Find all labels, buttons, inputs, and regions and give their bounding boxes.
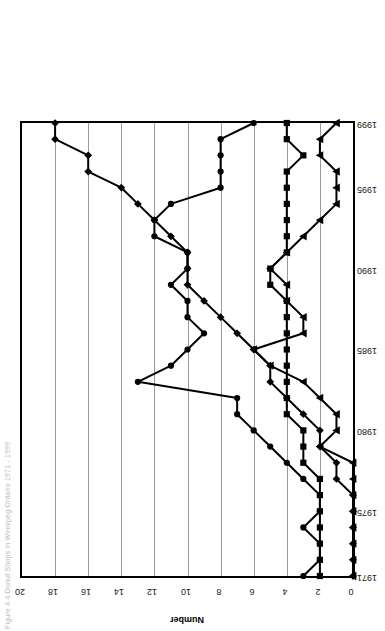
- data-point: [300, 460, 306, 466]
- data-point: [300, 476, 306, 482]
- y-tick-label: 14: [114, 587, 124, 597]
- y-tick-label-text: 8: [216, 587, 221, 597]
- y-tick-label-text: 16: [81, 587, 91, 597]
- data-point: [151, 217, 157, 223]
- data-point: [201, 330, 207, 336]
- x-tick-label-text: 1995: [357, 185, 377, 195]
- series-country-style: [135, 120, 323, 579]
- x-tick-label-text: 1980: [357, 427, 377, 437]
- data-point: [284, 379, 290, 385]
- chart-screenshot: Figure 4.4 Donut Shops in Winnipeg Ontar…: [0, 0, 385, 631]
- x-tick-label: 1975: [357, 508, 377, 518]
- y-tick-label: 10: [180, 587, 190, 597]
- x-tick-label: 1990: [357, 266, 377, 276]
- y-tick-label: 8: [216, 587, 221, 597]
- data-point: [284, 201, 290, 207]
- data-point: [317, 524, 323, 530]
- x-tick-label-text: 1975: [357, 508, 377, 518]
- data-point: [267, 282, 273, 288]
- data-point: [284, 314, 290, 320]
- series-line: [270, 123, 320, 576]
- y-tick-label: 0: [348, 587, 353, 597]
- y-tick-label-text: 12: [147, 587, 157, 597]
- series-line: [138, 123, 320, 576]
- data-point: [284, 363, 290, 369]
- data-point: [267, 443, 273, 449]
- figure-caption: Figure 4.4 Donut Shops in Winnipeg Ontar…: [4, 442, 11, 629]
- data-point: [218, 136, 224, 142]
- y-tick-label-text: 20: [15, 587, 25, 597]
- data-point: [300, 524, 306, 530]
- y-tick-label-text: 2: [315, 587, 320, 597]
- data-point: [184, 249, 190, 255]
- data-point: [51, 119, 59, 127]
- x-tick-label-text: 1990: [357, 266, 377, 276]
- x-tick-label: 1971: [357, 573, 377, 583]
- data-point: [284, 136, 290, 142]
- data-point: [284, 120, 290, 126]
- data-point: [284, 460, 290, 466]
- x-tick-label: 1995: [357, 185, 377, 195]
- plot-area: [20, 121, 355, 578]
- y-tick-label: 20: [15, 587, 25, 597]
- data-point: [168, 363, 174, 369]
- data-point: [300, 443, 306, 449]
- data-point: [251, 120, 257, 126]
- data-point: [284, 233, 290, 239]
- data-point: [284, 330, 290, 336]
- figure-container: Figure 4.4 Donut Shops in Winnipeg Ontar…: [0, 0, 385, 631]
- data-point: [317, 557, 323, 563]
- y-tick-label: 6: [249, 587, 254, 597]
- data-point: [299, 378, 307, 386]
- data-point: [317, 492, 323, 498]
- x-tick-label: 1999: [357, 120, 377, 130]
- series-independent: [250, 119, 357, 580]
- data-point: [300, 427, 306, 433]
- data-point: [251, 427, 257, 433]
- data-point: [84, 151, 92, 159]
- data-point: [84, 168, 92, 176]
- y-tick-label-text: 4: [282, 587, 287, 597]
- data-point: [184, 298, 190, 304]
- y-tick-label-text: 18: [48, 587, 58, 597]
- series-line: [55, 123, 353, 576]
- y-tick-label: 16: [81, 587, 91, 597]
- data-point: [317, 573, 323, 579]
- data-point: [218, 185, 224, 191]
- x-axis-tick-labels: 1971197519801985199019951999: [357, 121, 383, 578]
- x-tick-label-text: 1985: [357, 347, 377, 357]
- data-point: [284, 395, 290, 401]
- series-tim-hortons: [51, 119, 357, 580]
- data-point: [234, 395, 240, 401]
- data-point: [317, 508, 323, 514]
- y-tick-label-text: 14: [114, 587, 124, 597]
- data-point: [300, 573, 306, 579]
- data-point: [135, 379, 141, 385]
- y-tick-label: 18: [48, 587, 58, 597]
- y-tick-label: 12: [147, 587, 157, 597]
- y-axis-tick-labels: 20181614121086420: [20, 581, 355, 631]
- data-point: [218, 152, 224, 158]
- y-tick-label: 4: [282, 587, 287, 597]
- data-point: [218, 168, 224, 174]
- data-point: [317, 476, 323, 482]
- data-point: [51, 135, 59, 143]
- data-point: [168, 201, 174, 207]
- series-lines: [22, 123, 353, 576]
- data-point: [184, 266, 190, 272]
- y-tick-label-text: 6: [249, 587, 254, 597]
- y-tick-label: 2: [315, 587, 320, 597]
- data-point: [300, 152, 306, 158]
- x-tick-label: 1985: [357, 347, 377, 357]
- x-tick-label-text: 1999: [357, 120, 377, 130]
- series-second-tier-chains: [267, 120, 323, 579]
- data-point: [168, 282, 174, 288]
- x-tick-label: 1980: [357, 427, 377, 437]
- data-point: [284, 411, 290, 417]
- y-tick-label-text: 10: [180, 587, 190, 597]
- x-tick-label-text: 1971: [357, 573, 377, 583]
- y-tick-label-text: 0: [348, 587, 353, 597]
- data-point: [184, 314, 190, 320]
- data-point: [284, 346, 290, 352]
- data-point: [284, 217, 290, 223]
